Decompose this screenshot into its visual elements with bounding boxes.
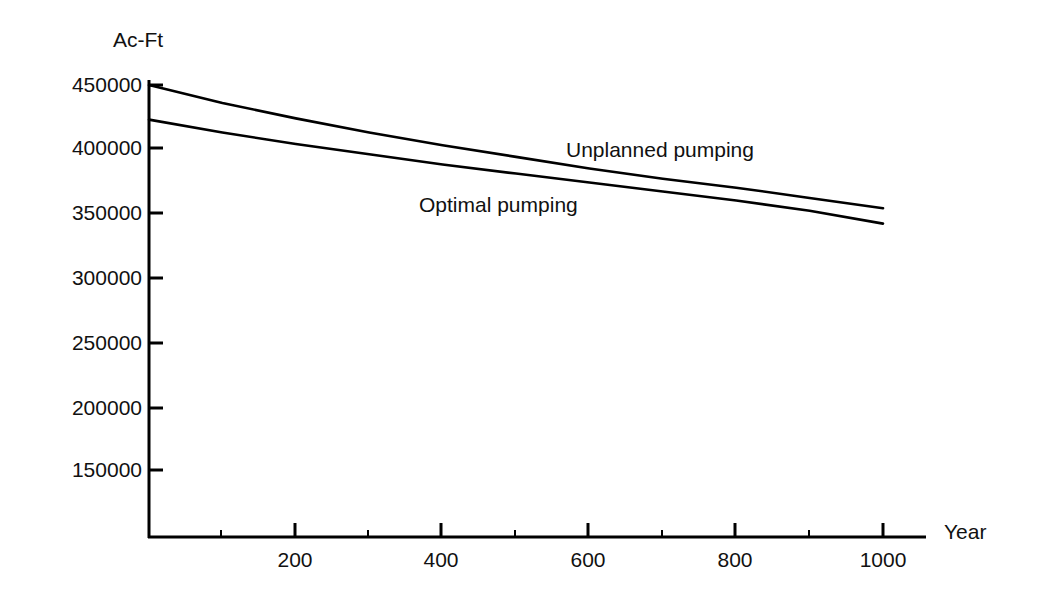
series-line-optimal-pumping — [149, 120, 883, 224]
x-axis-major-ticks — [295, 523, 883, 537]
chart-canvas: Ac-Ft Year 450000 400000 350000 300000 2… — [0, 0, 1041, 606]
y-axis-ticks — [149, 85, 163, 470]
series-line-unplanned-pumping — [149, 85, 883, 208]
plot-area — [0, 0, 1041, 606]
axis-lines — [148, 80, 926, 538]
series-lines — [149, 85, 883, 224]
